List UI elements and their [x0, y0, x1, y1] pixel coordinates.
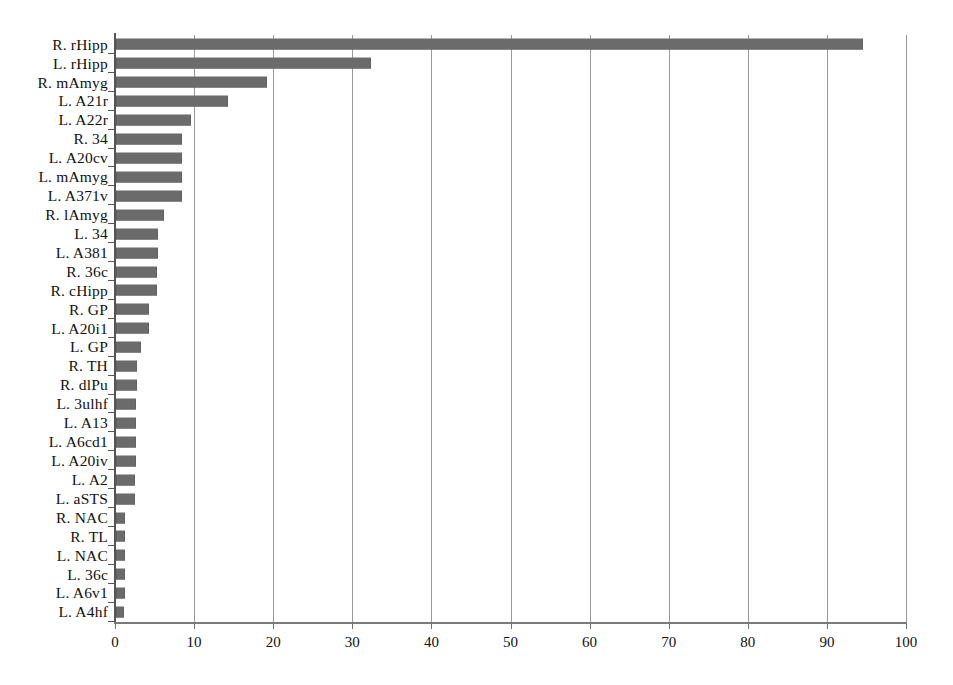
- bar-row: L. A20i1: [0, 319, 953, 338]
- bar: [116, 323, 149, 334]
- bar-row: L. GP: [0, 338, 953, 357]
- bar-fill: [116, 304, 149, 315]
- bar: [116, 304, 149, 315]
- category-label: R. NAC: [0, 510, 108, 526]
- bar-fill: [116, 115, 191, 126]
- bar: [116, 455, 136, 466]
- x-axis-tick-label: 60: [582, 634, 597, 651]
- bar: [116, 512, 125, 523]
- bar: [116, 531, 125, 542]
- bar-fill: [116, 550, 125, 561]
- bar-row: R. lAmyg: [0, 205, 953, 224]
- x-axis-tick-mark: [590, 624, 591, 629]
- bar-fill: [116, 474, 135, 485]
- bar-row: L. A20iv: [0, 451, 953, 470]
- category-label: L. A20iv: [0, 453, 108, 469]
- bar: [116, 588, 125, 599]
- y-axis-tick-mark: [108, 621, 114, 622]
- bar-fill: [116, 607, 124, 618]
- bar: [116, 569, 125, 580]
- bar-fill: [116, 152, 182, 163]
- x-axis-tick-mark: [431, 624, 432, 629]
- category-label: L. A21r: [0, 93, 108, 109]
- bar-fill: [116, 190, 182, 201]
- category-label: L. 3ulhf: [0, 396, 108, 412]
- category-label: L. NAC: [0, 548, 108, 564]
- bar-row: R. 34: [0, 130, 953, 149]
- bar-fill: [116, 512, 125, 523]
- bar-fill: [116, 323, 149, 334]
- category-label: L. A4hf: [0, 604, 108, 620]
- bar-row: R. TL: [0, 527, 953, 546]
- bar: [116, 436, 136, 447]
- x-axis-tick-mark: [115, 624, 116, 629]
- bar-fill: [116, 417, 136, 428]
- category-label: R. lAmyg: [0, 207, 108, 223]
- bar: [116, 115, 191, 126]
- bar-fill: [116, 436, 136, 447]
- x-axis-tick-label: 90: [819, 634, 834, 651]
- bar-fill: [116, 493, 135, 504]
- x-axis-tick-labels: 0102030405060708090100: [0, 624, 953, 664]
- bar-fill: [116, 58, 371, 69]
- bar-row: R. rHipp: [0, 35, 953, 54]
- bar: [116, 247, 158, 258]
- category-label: L. A381: [0, 245, 108, 261]
- bar-fill: [116, 380, 137, 391]
- category-label: L. A6v1: [0, 585, 108, 601]
- x-axis-tick-label: 50: [503, 634, 518, 651]
- bar: [116, 39, 863, 50]
- bar: [116, 285, 157, 296]
- category-label: L. A371v: [0, 188, 108, 204]
- category-label: L. 34: [0, 226, 108, 242]
- bar: [116, 417, 136, 428]
- bar: [116, 77, 267, 88]
- bar-row: R. dlPu: [0, 376, 953, 395]
- bar: [116, 266, 157, 277]
- x-axis-tick-mark: [194, 624, 195, 629]
- bar-row: R. GP: [0, 300, 953, 319]
- x-axis-tick-mark: [669, 624, 670, 629]
- bar: [116, 190, 182, 201]
- category-label: L. A22r: [0, 112, 108, 128]
- bar: [116, 134, 182, 145]
- bar-row: L. aSTS: [0, 489, 953, 508]
- category-label: R. mAmyg: [0, 75, 108, 91]
- bar: [116, 607, 124, 618]
- bar-fill: [116, 588, 125, 599]
- x-axis-tick-label: 20: [266, 634, 281, 651]
- bar: [116, 209, 164, 220]
- bar-row: L. 34: [0, 224, 953, 243]
- bar-fill: [116, 134, 182, 145]
- bar-fill: [116, 455, 136, 466]
- category-label: R. 34: [0, 131, 108, 147]
- bar: [116, 493, 135, 504]
- category-label: L. mAmyg: [0, 169, 108, 185]
- x-axis-tick-mark: [511, 624, 512, 629]
- bar-fill: [116, 247, 158, 258]
- bar-row: L. A4hf: [0, 603, 953, 622]
- category-label: L. A20i1: [0, 321, 108, 337]
- category-label: R. TL: [0, 529, 108, 545]
- bar: [116, 171, 182, 182]
- bar-fill: [116, 342, 141, 353]
- bar: [116, 342, 141, 353]
- x-axis-tick-mark: [827, 624, 828, 629]
- bar-fill: [116, 361, 137, 372]
- bar-row: L. mAmyg: [0, 167, 953, 186]
- bar: [116, 361, 137, 372]
- bar: [116, 380, 137, 391]
- bar-row: L. rHipp: [0, 54, 953, 73]
- x-axis-tick-mark: [906, 624, 907, 629]
- bar: [116, 152, 182, 163]
- x-axis-tick-label: 10: [187, 634, 202, 651]
- bar-row: R. cHipp: [0, 281, 953, 300]
- bar-row: L. NAC: [0, 546, 953, 565]
- bar-fill: [116, 569, 125, 580]
- bar-row: L. A6cd1: [0, 432, 953, 451]
- category-label: R. GP: [0, 302, 108, 318]
- bar-fill: [116, 266, 157, 277]
- bar-fill: [116, 285, 157, 296]
- category-label: L. A20cv: [0, 150, 108, 166]
- x-axis-tick-mark: [352, 624, 353, 629]
